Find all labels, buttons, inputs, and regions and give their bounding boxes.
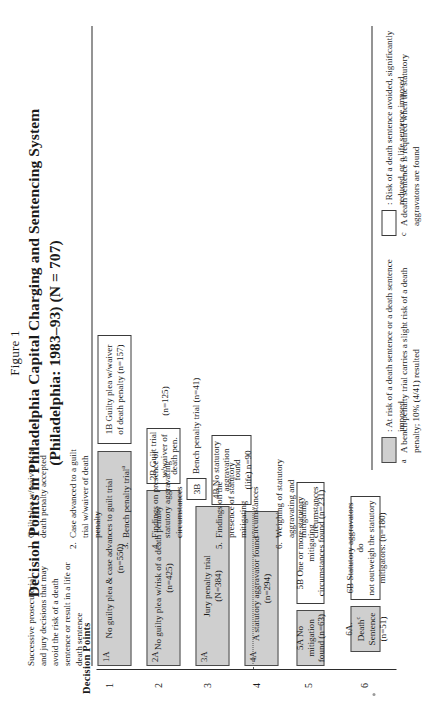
decision-point-4: 4. Findings on presence of statutory agg… — [148, 449, 184, 549]
footnote-a: a A bench penalty trial carries a slight… — [398, 253, 422, 463]
horizontal-divider-top — [91, 26, 92, 666]
row-number-3: 3 — [201, 683, 212, 688]
node-3A-line2: (N=384) — [212, 570, 222, 601]
side-intro-text: Successive prosecutorial and jury decisi… — [24, 561, 84, 666]
node-6B-line2: not outweigh the statutory — [365, 500, 375, 595]
decision-point-1-text: Guilt plea w/waiver of a death penalty a… — [24, 449, 48, 538]
figure-label: Figure 1 — [6, 0, 22, 706]
decision-point-1-number: 1. — [24, 542, 36, 549]
footnote-c-text: A death sentence is required when the st… — [398, 11, 422, 226]
node-3B[interactable]: 3B — [186, 478, 206, 500]
page-speck — [372, 693, 375, 696]
node-2B-count: (n=125) — [159, 379, 170, 423]
legend-swatch-white — [381, 210, 396, 236]
node-1B-line2: of death penalty (n=157) — [114, 344, 124, 434]
node-6A-line2: Sentence — [366, 613, 376, 646]
row-number-5: 5 — [302, 683, 313, 688]
node-2A-tag: 2A — [149, 651, 159, 662]
decision-point-4-text: Findings on presence of statutory aggrav… — [148, 449, 184, 538]
decision-point-3-number: 3. — [118, 542, 130, 549]
node-1A-tag: 1A — [100, 651, 110, 662]
node-6B-line1: 6B Statutory aggravators do — [344, 503, 365, 594]
footnote-c: c A death sentence is required when the … — [398, 11, 422, 236]
row-number-2: 2 — [152, 683, 163, 688]
decision-point-1: 1. Guilt plea w/waiver of a death penalt… — [24, 449, 48, 549]
decision-point-3-text: Bench penalty triala — [118, 449, 131, 538]
decision-point-5-text: Findings on the presence of statutory mi… — [212, 449, 260, 538]
node-6A-line3: (n=51) — [377, 617, 387, 642]
decision-point-6-text: Weighing of statutory aggravating and mi… — [272, 449, 320, 538]
footnote-c-marker: c — [398, 232, 408, 236]
node-6A-footnote-marker: c — [353, 617, 360, 620]
decision-point-5: 5. Findings on the presence of statutory… — [212, 449, 260, 549]
decision-point-4-number: 4. — [148, 542, 160, 549]
decision-point-2-number: 2. — [66, 542, 78, 549]
node-5A[interactable]: 5A No mitigation found (n=63) — [296, 610, 324, 666]
vertical-axis — [96, 669, 396, 670]
legend-swatch-shaded — [381, 437, 396, 463]
node-4A-line2: (n=294) — [261, 574, 271, 603]
decision-point-2-text: Case advanced to a guilt trial w/waiver … — [66, 449, 102, 538]
node-3A-tag: 3A — [198, 651, 208, 662]
node-3B-side-label: Bench penalty trial (n=41) — [190, 354, 201, 474]
decision-point-3: 3. Bench penalty triala — [118, 449, 131, 549]
row-number-4: 4 — [250, 683, 261, 688]
footnote-a-marker: a — [398, 459, 408, 463]
decision-point-3-label: Bench penalty trial — [120, 469, 130, 538]
node-1B[interactable]: 1B Guilty plea w/waiver of death penalty… — [97, 335, 131, 444]
decision-point-2: 2. Case advanced to a guilt trial w/waiv… — [66, 449, 102, 549]
node-3B-tag: 3B — [191, 484, 202, 495]
decision-point-3-footnote-marker: a — [118, 466, 125, 469]
horizontal-divider-bottom — [371, 26, 372, 470]
row-number-6: 6 — [358, 683, 369, 688]
decision-point-6-number: 6. — [272, 542, 284, 549]
node-1B-line1: 1B Guilty plea w/waiver — [103, 345, 113, 435]
row-number-1: 1 — [103, 683, 114, 688]
decision-point-5-number: 5. — [212, 542, 224, 549]
footnote-a-text: A bench penalty trial carries a slight r… — [398, 253, 422, 453]
node-5A-line1: 5A No mitigation — [294, 619, 315, 656]
node-6A[interactable]: 6A. Deathc Sentence (n=51) — [350, 606, 380, 652]
node-6B-line3: mitigators: (n=180) — [376, 512, 386, 583]
decision-point-6: 6. Weighing of statutory aggravating and… — [272, 449, 320, 549]
node-2A-count: (n=425) — [163, 563, 173, 592]
node-1A-text: No guilty plea & case advances to guilt … — [103, 478, 113, 638]
node-6B[interactable]: 6B Statutory aggravators do not outweigh… — [350, 496, 380, 600]
node-6A-line1: 6A. Death — [343, 620, 366, 642]
node-3A-line1: Jury penalty trial — [201, 555, 211, 617]
node-5A-line2: found (n=63) — [315, 614, 325, 662]
